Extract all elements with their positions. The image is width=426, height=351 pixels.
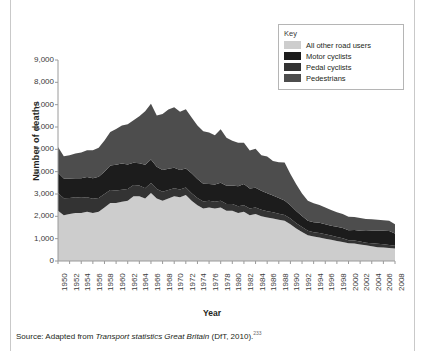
x-tick-label: 1954 bbox=[84, 273, 92, 291]
source-suffix: (DfT, 2010). bbox=[209, 332, 253, 341]
legend-swatch bbox=[284, 52, 301, 60]
x-tick-label: 1998 bbox=[340, 273, 348, 291]
x-tick-label: 1952 bbox=[73, 273, 81, 291]
y-tick-label: 2,000 bbox=[14, 212, 54, 220]
x-tick-label: 1974 bbox=[200, 273, 208, 291]
y-tick-label: 6,000 bbox=[14, 123, 54, 131]
x-tick-label: 1984 bbox=[259, 273, 267, 291]
x-axis-title: Year bbox=[12, 308, 412, 318]
x-tick-label: 1966 bbox=[154, 273, 162, 291]
x-tick-label: 1982 bbox=[247, 273, 255, 291]
y-tick-label: 1,000 bbox=[14, 235, 54, 243]
y-tick-label: 0 bbox=[14, 257, 54, 265]
legend-item: Pedal cyclists bbox=[284, 62, 398, 72]
x-tick-label: 1970 bbox=[177, 273, 185, 291]
x-tick-label: 1962 bbox=[131, 273, 139, 291]
legend-items: All other road usersMotor cyclistsPedal … bbox=[284, 40, 398, 83]
legend-title: Key bbox=[284, 29, 398, 38]
source-reference-number: 233 bbox=[253, 330, 261, 336]
legend-item: Motor cyclists bbox=[284, 51, 398, 61]
x-tick-label: 1950 bbox=[61, 273, 69, 291]
source-prefix: Source: Adapted from bbox=[16, 332, 96, 341]
x-tick-label: 2008 bbox=[398, 273, 406, 291]
y-tick-label: 3,000 bbox=[14, 190, 54, 198]
x-tick-label: 1988 bbox=[282, 273, 290, 291]
x-tick-label: 1980 bbox=[235, 273, 243, 291]
x-tick-label: 1996 bbox=[328, 273, 336, 291]
x-tick-label: 1978 bbox=[224, 273, 232, 291]
x-tick-label: 1956 bbox=[96, 273, 104, 291]
y-axis-title: Number of deaths bbox=[31, 76, 41, 206]
x-tick-label: 1976 bbox=[212, 273, 220, 291]
x-tick-label: 1992 bbox=[305, 273, 313, 291]
legend-item-label: Pedal cyclists bbox=[306, 63, 351, 72]
source-title: Transport statistics Great Britain bbox=[96, 332, 210, 341]
x-tick-label: 1960 bbox=[119, 273, 127, 291]
y-tick-label: 8,000 bbox=[14, 78, 54, 86]
legend-item-label: All other road users bbox=[306, 41, 371, 50]
source-caption: Source: Adapted from Transport statistic… bbox=[16, 330, 262, 341]
figure-right-rule bbox=[414, 0, 415, 351]
y-tick-label: 7,000 bbox=[14, 101, 54, 109]
x-tick-label: 2000 bbox=[352, 273, 360, 291]
x-tick-label: 1986 bbox=[270, 273, 278, 291]
y-tick-label: 4,000 bbox=[14, 168, 54, 176]
legend-item-label: Motor cyclists bbox=[306, 52, 351, 61]
x-tick-label: 2006 bbox=[386, 273, 394, 291]
y-tick-label: 5,000 bbox=[14, 145, 54, 153]
x-tick-label: 2002 bbox=[363, 273, 371, 291]
x-tick-label: 1994 bbox=[317, 273, 325, 291]
legend-item: All other road users bbox=[284, 40, 398, 50]
x-tick-label: 1972 bbox=[189, 273, 197, 291]
figure-container: Number of deaths Year 01,0002,0003,0004,… bbox=[0, 0, 426, 351]
chart-area: Number of deaths Year 01,0002,0003,0004,… bbox=[12, 3, 412, 321]
x-tick-label: 2004 bbox=[375, 273, 383, 291]
legend-swatch bbox=[284, 63, 301, 71]
y-tick-label: 9,000 bbox=[14, 56, 54, 64]
x-tick-label: 1958 bbox=[107, 273, 115, 291]
legend-swatch bbox=[284, 74, 301, 82]
figure-left-rule bbox=[10, 0, 11, 351]
legend-swatch bbox=[284, 41, 301, 49]
legend-item-label: Pedestrians bbox=[306, 74, 346, 83]
x-tick-label: 1968 bbox=[166, 273, 174, 291]
x-tick-label: 1964 bbox=[142, 273, 150, 291]
legend-item: Pedestrians bbox=[284, 73, 398, 83]
x-tick-label: 1990 bbox=[293, 273, 301, 291]
chart-legend: Key All other road usersMotor cyclistsPe… bbox=[278, 24, 404, 90]
